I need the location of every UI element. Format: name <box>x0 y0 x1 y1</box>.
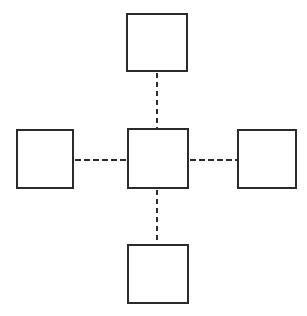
node-box-bottom[interactable] <box>127 244 189 304</box>
connector-center-to-bottom <box>156 190 158 244</box>
node-label-right <box>239 131 295 187</box>
node-box-center[interactable] <box>127 128 189 189</box>
node-label-bottom <box>129 246 187 302</box>
node-box-top[interactable] <box>126 13 188 72</box>
node-box-left[interactable] <box>16 129 74 189</box>
node-label-center <box>129 130 187 187</box>
diagram-canvas <box>0 0 307 316</box>
node-label-left <box>18 131 72 187</box>
connector-center-to-top <box>156 73 158 128</box>
node-label-top <box>128 15 186 70</box>
node-box-right[interactable] <box>237 129 297 189</box>
connector-center-to-left <box>75 159 127 161</box>
connector-center-to-right <box>190 159 237 161</box>
